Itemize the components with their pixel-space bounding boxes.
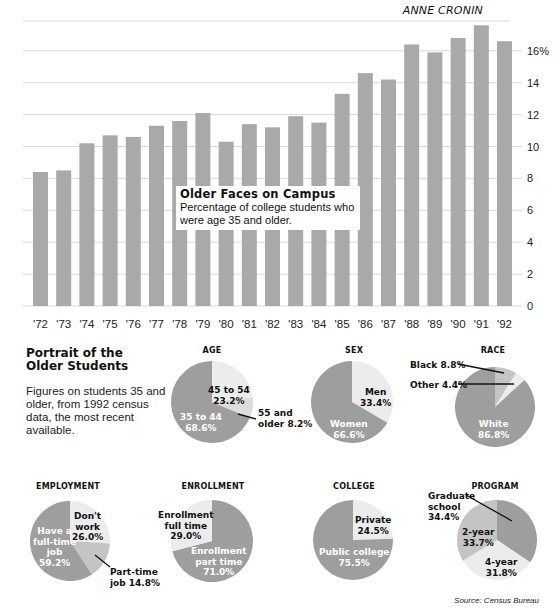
label-text: Have a <box>33 526 76 537</box>
y-tick-label: 2 <box>527 268 533 280</box>
label-value: 34.4% <box>428 512 475 523</box>
label-text: Don't <box>72 511 103 522</box>
x-tick-label: '74 <box>79 318 95 330</box>
label-value: 86.8% <box>478 430 509 441</box>
x-tick-label: '90 <box>451 318 466 330</box>
x-tick-label: '79 <box>195 318 210 330</box>
y-tick-label: 16% <box>527 45 549 57</box>
pie-label-white: White 86.8% <box>478 419 509 440</box>
label-value: 33.7% <box>462 538 494 549</box>
chart-title: Older Faces on Campus <box>180 188 356 201</box>
label-text: part time <box>191 557 247 568</box>
pie-label-public: Public college 75.5% <box>319 547 389 568</box>
x-tick-label: '91 <box>474 318 489 330</box>
y-tick-label: 6 <box>527 204 533 216</box>
label-value: 31.8% <box>485 568 517 579</box>
pie-label-black: Black 8.8% <box>410 360 465 371</box>
x-tick-label: '76 <box>126 318 141 330</box>
bar <box>126 137 141 306</box>
bar <box>103 135 118 306</box>
x-tick-label: '72 <box>33 318 48 330</box>
label-text: Enrollment <box>158 510 214 521</box>
label-value: 59.2% <box>33 558 76 569</box>
portrait-description: Figures on students 35 and older, from 1… <box>26 385 176 437</box>
bar <box>427 52 442 306</box>
x-tick-label: '82 <box>265 318 280 330</box>
pie-title-enrollment: ENROLLMENT <box>163 482 263 491</box>
label-value: 24.5% <box>355 526 391 537</box>
pie-label-part-time-job: Part-time job 14.8% <box>110 567 160 588</box>
pie-label-women: Women 66.6% <box>330 419 368 440</box>
label-value: 68.6% <box>180 423 222 434</box>
pie-title-age: AGE <box>162 346 262 355</box>
label-value: 33.4% <box>360 398 391 409</box>
label-text: 2-year <box>462 527 494 538</box>
y-axis-ticks: 0246810121416% <box>527 45 549 312</box>
pie-label-full-time: Enrollment full time 29.0% <box>158 510 214 542</box>
x-tick-label: '73 <box>56 318 71 330</box>
bar <box>404 44 419 306</box>
x-axis-ticks: '72'73'74'75'76'77'78'79'80'81'82'83'84'… <box>33 318 512 330</box>
label-value: older 8.2% <box>258 419 312 430</box>
label-text: 4-year <box>485 557 517 568</box>
label-text: 35 to 44 <box>180 412 222 423</box>
pie-label-dont-work: Don't work 26.0% <box>72 511 103 543</box>
chart-caption: Older Faces on Campus Percentage of coll… <box>176 186 360 230</box>
bar <box>474 25 489 306</box>
x-tick-label: '83 <box>288 318 303 330</box>
label-text: full-time <box>33 537 76 548</box>
label-text: Part-time <box>110 567 160 578</box>
label-value: 66.6% <box>330 430 368 441</box>
label-value: 71.0% <box>191 567 247 578</box>
x-tick-label: '81 <box>242 318 257 330</box>
bar <box>381 80 396 306</box>
pie-label-part-time: Enrollment part time 71.0% <box>191 546 247 578</box>
pie-label-55-older: 55 and older 8.2% <box>258 408 312 429</box>
label-text: Women <box>330 419 368 430</box>
label-value: 23.2% <box>208 396 250 407</box>
x-tick-label: '87 <box>381 318 396 330</box>
pie-label-other: Other 4.4% <box>410 380 467 391</box>
x-tick-label: '78 <box>172 318 187 330</box>
pie-title-race: RACE <box>443 346 543 355</box>
bar <box>358 73 373 306</box>
label-value: 75.5% <box>319 558 389 569</box>
pie-label-4-year: 4-year 31.8% <box>485 557 517 578</box>
bar <box>497 41 512 306</box>
y-tick-label: 0 <box>527 300 533 312</box>
x-tick-label: '77 <box>149 318 164 330</box>
label-text: Men <box>360 387 391 398</box>
label-text: 55 and <box>258 408 312 419</box>
pie-title-sex: SEX <box>304 346 404 355</box>
label-text: work <box>72 522 103 533</box>
pie-label-2-year: 2-year 33.7% <box>462 527 494 548</box>
x-tick-label: '88 <box>404 318 419 330</box>
bar <box>33 172 48 306</box>
label-value: job 14.8% <box>110 578 160 589</box>
label-text: school <box>428 502 475 513</box>
label-text: Public college <box>319 547 389 558</box>
pie-label-full-time-job: Have a full-time job 59.2% <box>33 526 76 568</box>
label-text: job <box>33 547 76 558</box>
bar <box>56 170 71 306</box>
bar <box>149 126 164 306</box>
source-note: Source: Census Bureau <box>454 596 539 605</box>
pie-title-program: PROGRAM <box>445 482 545 491</box>
label-value: 29.0% <box>158 531 214 542</box>
chart-subtitle: Percentage of college students who were … <box>180 201 356 226</box>
pie-label-men: Men 33.4% <box>360 387 391 408</box>
pie-label-35-44: 35 to 44 68.6% <box>180 412 222 433</box>
bar <box>79 143 94 306</box>
x-tick-label: '75 <box>103 318 118 330</box>
portrait-heading-line2: Older Students <box>26 360 128 373</box>
pie-title-employment: EMPLOYMENT <box>18 482 118 491</box>
x-tick-label: '85 <box>335 318 350 330</box>
x-tick-label: '89 <box>427 318 442 330</box>
y-tick-label: 4 <box>527 236 533 248</box>
pie-label-graduate: Graduate school 34.4% <box>428 491 475 523</box>
y-tick-label: 12 <box>527 109 539 121</box>
bar-series <box>33 25 512 306</box>
x-tick-label: '80 <box>219 318 234 330</box>
x-tick-label: '86 <box>358 318 373 330</box>
label-text: Private <box>355 515 391 526</box>
